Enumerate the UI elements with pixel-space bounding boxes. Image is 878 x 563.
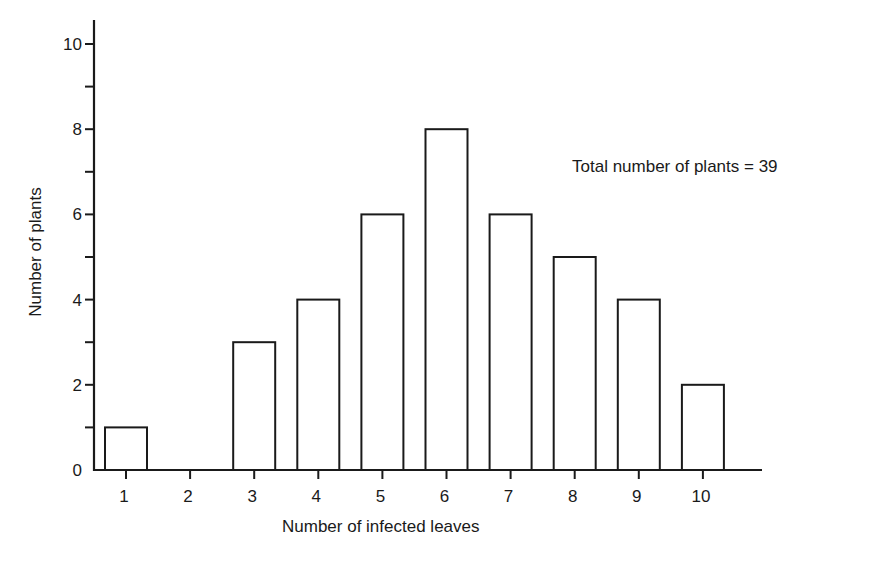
bars-group	[105, 129, 724, 470]
y-tick-label: 0	[73, 461, 82, 480]
bar-10	[682, 385, 724, 470]
bar-7	[490, 214, 532, 470]
x-tick-label: 7	[504, 487, 513, 506]
x-tick-label: 4	[312, 487, 321, 506]
x-tick-label: 3	[247, 487, 256, 506]
histogram-chart: 0246810 12345678910	[0, 0, 878, 563]
x-tick-label: 6	[440, 487, 449, 506]
bar-4	[297, 300, 339, 470]
y-axis-label: Number of plants	[26, 187, 46, 316]
x-axis-label: Number of infected leaves	[282, 517, 480, 537]
y-tick-label: 6	[73, 205, 82, 224]
bar-3	[233, 342, 275, 470]
bar-5	[361, 214, 403, 470]
y-axis-ticks: 0246810	[63, 35, 94, 480]
y-tick-label: 8	[73, 120, 82, 139]
bar-1	[105, 427, 147, 470]
bar-8	[554, 257, 596, 470]
bar-6	[426, 129, 468, 470]
x-tick-label: 8	[568, 487, 577, 506]
x-tick-label: 9	[632, 487, 641, 506]
x-tick-label: 2	[183, 487, 192, 506]
x-tick-label: 10	[691, 487, 710, 506]
y-tick-label: 4	[73, 291, 82, 310]
x-tick-label: 1	[119, 487, 128, 506]
x-tick-label: 5	[376, 487, 385, 506]
y-tick-label: 10	[63, 35, 82, 54]
bar-9	[618, 300, 660, 470]
total-plants-annotation: Total number of plants = 39	[572, 157, 778, 177]
x-axis-ticks: 12345678910	[119, 470, 710, 506]
y-tick-label: 2	[73, 376, 82, 395]
